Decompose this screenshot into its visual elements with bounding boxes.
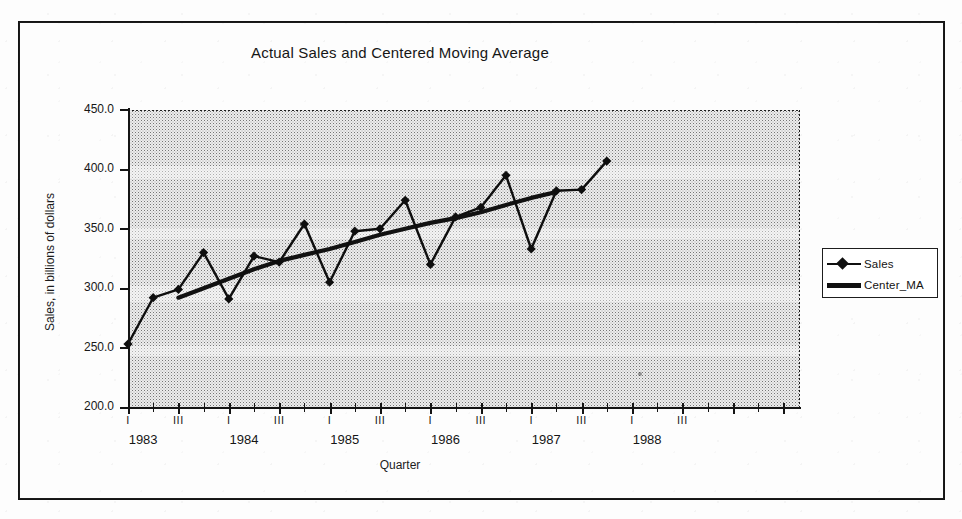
x-tick bbox=[430, 403, 432, 414]
data-series-layer bbox=[128, 110, 800, 407]
x-quarter-label: III bbox=[173, 414, 184, 426]
x-tick bbox=[405, 403, 406, 412]
x-quarter-label: I bbox=[126, 414, 130, 426]
x-tick bbox=[128, 403, 130, 414]
x-year-label: 1987 bbox=[532, 432, 561, 447]
chart-figure: Actual Sales and Centered Moving Average… bbox=[0, 0, 962, 519]
y-axis-line bbox=[128, 108, 130, 409]
x-tick bbox=[657, 403, 658, 412]
y-tick-label-250: 250.0 bbox=[58, 340, 114, 354]
x-quarter-label: I bbox=[529, 414, 533, 426]
x-tick bbox=[456, 403, 457, 412]
x-year-label: 1985 bbox=[330, 432, 359, 447]
y-tick-label-300: 300.0 bbox=[58, 280, 114, 294]
x-tick bbox=[531, 403, 533, 414]
x-tick bbox=[481, 403, 483, 414]
x-tick bbox=[355, 403, 356, 412]
x-quarter-label: III bbox=[375, 414, 386, 426]
x-tick bbox=[733, 403, 735, 414]
x-quarter-label: III bbox=[475, 414, 486, 426]
x-axis-title: Quarter bbox=[0, 458, 800, 472]
x-year-label: 1983 bbox=[129, 432, 158, 447]
x-quarter-label: III bbox=[274, 414, 285, 426]
x-year-label: 1988 bbox=[633, 432, 662, 447]
data-point-marker bbox=[350, 227, 359, 236]
x-tick bbox=[229, 403, 231, 414]
x-tick bbox=[304, 403, 305, 412]
data-point-marker bbox=[149, 293, 158, 302]
x-tick bbox=[204, 403, 205, 412]
legend-item-sales: Sales bbox=[827, 253, 937, 274]
y-tick-label-350: 350.0 bbox=[58, 221, 114, 235]
chart-title: Actual Sales and Centered Moving Average bbox=[0, 44, 800, 61]
x-quarter-label: III bbox=[576, 414, 587, 426]
data-point-marker bbox=[426, 260, 435, 269]
x-tick bbox=[279, 403, 281, 414]
data-point-marker bbox=[325, 278, 334, 287]
x-quarter-label: I bbox=[328, 414, 332, 426]
x-year-label: 1984 bbox=[229, 432, 258, 447]
y-axis-tick-labels: 450.0 400.0 350.0 300.0 250.0 200.0 bbox=[56, 0, 114, 519]
x-tick bbox=[506, 403, 507, 412]
y-tick-label-400: 400.0 bbox=[58, 161, 114, 175]
x-tick bbox=[254, 403, 255, 412]
x-tick bbox=[380, 403, 382, 414]
x-quarter-label: I bbox=[630, 414, 634, 426]
data-point-marker bbox=[527, 244, 536, 253]
x-tick bbox=[582, 403, 584, 414]
x-tick bbox=[330, 403, 332, 414]
legend-marker-diamond-icon bbox=[827, 257, 861, 271]
y-tick-label-450: 450.0 bbox=[58, 102, 114, 116]
legend-item-center-ma: Center_MA bbox=[827, 274, 937, 295]
x-quarter-label: I bbox=[429, 414, 433, 426]
x-tick bbox=[153, 403, 154, 412]
series-line-center-ma bbox=[178, 192, 556, 298]
x-tick bbox=[556, 403, 557, 412]
plot-area bbox=[128, 110, 800, 407]
x-year-label: 1986 bbox=[431, 432, 460, 447]
x-tick bbox=[682, 403, 684, 414]
x-tick bbox=[178, 403, 180, 414]
legend-label-sales: Sales bbox=[864, 258, 894, 270]
legend: Sales Center_MA bbox=[822, 248, 938, 298]
x-tick bbox=[758, 403, 759, 412]
y-axis-title: Sales, in billions of dollars bbox=[43, 152, 57, 372]
x-tick bbox=[708, 403, 709, 412]
x-quarter-label: I bbox=[227, 414, 231, 426]
x-tick bbox=[783, 403, 785, 414]
legend-marker-thick-line-icon bbox=[827, 278, 861, 292]
legend-label-center-ma: Center_MA bbox=[864, 279, 924, 291]
x-tick bbox=[607, 403, 608, 412]
x-tick bbox=[632, 403, 634, 414]
y-tick-label-200: 200.0 bbox=[58, 399, 114, 413]
x-quarter-label: III bbox=[677, 414, 688, 426]
